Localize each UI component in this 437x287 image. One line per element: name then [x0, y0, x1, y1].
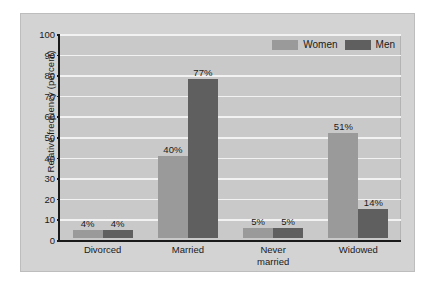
bar-women-divorced[interactable]: 4% — [73, 34, 103, 240]
bar-men-married[interactable]: 77% — [188, 34, 218, 240]
bar-men-never-married[interactable]: 5% — [273, 34, 303, 240]
bar-men-divorced[interactable]: 4% — [103, 34, 133, 240]
bar-value-label: 51% — [334, 121, 353, 132]
bar-group: 40%77% — [145, 34, 230, 240]
x-axis-line — [58, 240, 401, 242]
x-axis-label-line: Widowed — [316, 244, 401, 256]
x-axis-label-widowed: Widowed — [316, 244, 401, 267]
bar-value-label: 5% — [251, 216, 265, 227]
bar-rect — [188, 79, 218, 238]
y-axis-tick-label: 20 — [44, 193, 55, 204]
bar-women-married[interactable]: 40% — [158, 34, 188, 240]
y-axis-tick-label: 70 — [44, 90, 55, 101]
y-axis-tick-label: 0 — [50, 235, 55, 246]
x-axis-label-never-married: Nevermarried — [231, 244, 316, 267]
y-axis-tick-label: 60 — [44, 111, 55, 122]
bar-rect — [273, 228, 303, 238]
bar-rect — [103, 230, 133, 238]
bar-rect — [328, 133, 358, 238]
bar-value-label: 77% — [193, 67, 212, 78]
bar-group: 5%5% — [231, 34, 316, 240]
bar-women-never-married[interactable]: 5% — [243, 34, 273, 240]
y-axis-tick-label: 100 — [39, 29, 55, 40]
y-axis-tick-label: 50 — [44, 132, 55, 143]
y-axis-tick-label: 40 — [44, 152, 55, 163]
bar-men-widowed[interactable]: 14% — [358, 34, 388, 240]
bar-groups: 4%4%40%77%5%5%51%14% — [60, 34, 401, 240]
chart-legend: WomenMen — [272, 39, 395, 50]
bar-rect — [358, 209, 388, 238]
y-axis-line — [58, 34, 60, 242]
bar-value-label: 4% — [81, 218, 95, 229]
y-axis-tick-label: 80 — [44, 70, 55, 81]
x-axis-label-line: Never — [231, 244, 316, 256]
chart-figure: Relative frequency (percent) 01020304050… — [20, 13, 415, 272]
legend-label: Women — [303, 39, 337, 50]
y-axis-tick-label: 30 — [44, 173, 55, 184]
legend-swatch-icon — [272, 40, 298, 50]
bar-value-label: 40% — [163, 144, 182, 155]
legend-label: Men — [376, 39, 395, 50]
y-axis-tick-label: 90 — [44, 49, 55, 60]
x-axis-labels: DivorcedMarriedNevermarriedWidowed — [60, 244, 401, 267]
plot-area: 0102030405060708090100 WomenMen 4%4%40%7… — [58, 34, 401, 242]
bar-value-label: 5% — [281, 216, 295, 227]
bar-women-widowed[interactable]: 51% — [328, 34, 358, 240]
x-axis-label-line: Divorced — [60, 244, 145, 256]
bar-rect — [73, 230, 103, 238]
bar-rect — [243, 228, 273, 238]
x-axis-label-line: Married — [145, 244, 230, 256]
bar-group: 4%4% — [60, 34, 145, 240]
x-axis-label-line: married — [231, 256, 316, 268]
legend-item-women[interactable]: Women — [272, 39, 337, 50]
legend-swatch-icon — [345, 40, 371, 50]
bar-value-label: 4% — [111, 218, 125, 229]
bar-value-label: 14% — [364, 197, 383, 208]
x-axis-label-divorced: Divorced — [60, 244, 145, 267]
x-axis-label-married: Married — [145, 244, 230, 267]
legend-item-men[interactable]: Men — [345, 39, 395, 50]
bar-rect — [158, 156, 188, 238]
bar-group: 51%14% — [316, 34, 401, 240]
y-axis-tick-label: 10 — [44, 214, 55, 225]
